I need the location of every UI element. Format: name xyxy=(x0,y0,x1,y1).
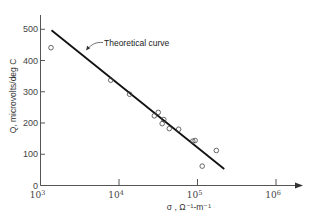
y-tick-label: 300 xyxy=(23,87,38,97)
x-axis-label: σ , Ω⁻¹-m⁻¹ xyxy=(167,202,211,212)
data-points xyxy=(49,45,219,168)
x-tick-label: 105 xyxy=(187,189,203,201)
data-point-open-circle xyxy=(167,126,172,131)
y-tick-label: 500 xyxy=(23,24,38,34)
y-tick-label: 100 xyxy=(23,149,38,159)
data-point-open-circle xyxy=(200,164,205,169)
theoretical-curve-line xyxy=(51,30,224,169)
x-tick-label: 104 xyxy=(108,189,124,201)
axes xyxy=(41,15,304,189)
data-point-open-circle xyxy=(156,110,161,115)
x-tick-label: 103 xyxy=(30,189,46,201)
data-point-open-circle xyxy=(152,114,157,119)
chart: 0100200300400500 103104105106 Q, microvo… xyxy=(0,0,309,219)
data-point-open-circle xyxy=(49,45,54,50)
theoretical-curve xyxy=(51,30,224,169)
x-tick-label: 106 xyxy=(265,189,281,201)
x-ticks: 103104105106 xyxy=(30,179,281,200)
y-tick-label: 400 xyxy=(23,56,38,66)
annotation-text: Theoretical curve xyxy=(104,38,169,48)
data-point-open-circle xyxy=(176,127,181,132)
y-axis-label: Q, microvolts/deg C xyxy=(8,59,18,134)
data-point-open-circle xyxy=(214,148,219,153)
y-ticks: 0100200300400500 xyxy=(23,24,45,190)
theoretical-curve-annotation: Theoretical curve xyxy=(86,38,169,51)
y-tick-label: 200 xyxy=(23,118,38,128)
x-axis-arrowhead xyxy=(295,183,303,189)
